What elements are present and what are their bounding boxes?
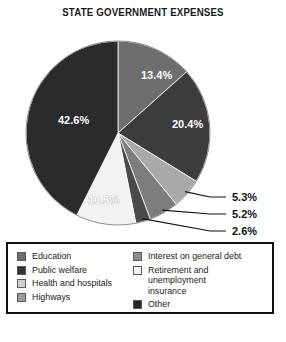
- legend-item-label: Interest on general debt: [148, 251, 241, 262]
- legend-swatch: [17, 293, 26, 302]
- callout-leader-line: [185, 192, 226, 197]
- pie-chart: 13.4%20.4%42.6%10.5% 5.3%5.2%2.6%: [0, 24, 286, 236]
- legend-item-label: Education: [32, 251, 71, 262]
- legend-swatch: [17, 266, 26, 275]
- legend-item[interactable]: Highways: [17, 292, 133, 303]
- pie-slice-label: 20.4%: [172, 118, 203, 130]
- legend-item[interactable]: Education: [17, 251, 133, 262]
- callout-leader-line: [142, 219, 226, 231]
- legend-item[interactable]: Public welfare: [17, 265, 133, 276]
- pie-callout-labels: 5.3%5.2%2.6%: [232, 191, 257, 236]
- pie-callout-label: 5.2%: [232, 208, 257, 220]
- pie-callout-label: 5.3%: [232, 191, 257, 203]
- legend-column-right: Interest on general debt Retirement and …: [133, 251, 272, 312]
- page-title: STATE GOVERNMENT EXPENSES: [11, 6, 274, 18]
- legend-item[interactable]: Retirement and unemployment insurance: [133, 265, 272, 297]
- legend-swatch: [133, 252, 142, 261]
- legend-item-label: Other: [148, 299, 170, 310]
- legend-swatch: [133, 266, 142, 275]
- pie-chart-svg: 13.4%20.4%42.6%10.5% 5.3%5.2%2.6%: [0, 24, 286, 236]
- pie-slice-label: 13.4%: [141, 69, 172, 81]
- legend-item-label: Health and hospitals: [32, 278, 112, 289]
- legend-item-label: Retirement and unemployment insurance: [148, 265, 266, 297]
- legend-item-label: Highways: [32, 292, 70, 303]
- pie-callout-label: 2.6%: [232, 225, 257, 236]
- pie-slice-label: 10.5%: [88, 194, 119, 206]
- legend-swatch: [17, 279, 26, 288]
- pie-slice-label: 42.6%: [58, 114, 89, 126]
- legend-swatch: [133, 300, 142, 309]
- legend-item[interactable]: Other: [133, 299, 272, 310]
- legend-item[interactable]: Interest on general debt: [133, 251, 272, 262]
- legend-item-label: Public welfare: [32, 265, 87, 276]
- legend-item[interactable]: Health and hospitals: [17, 278, 133, 289]
- legend-column-left: Education Public welfare Health and hosp…: [17, 251, 133, 312]
- callout-leader-line: [162, 210, 226, 214]
- legend-swatch: [17, 252, 26, 261]
- legend: Education Public welfare Health and hosp…: [6, 242, 274, 314]
